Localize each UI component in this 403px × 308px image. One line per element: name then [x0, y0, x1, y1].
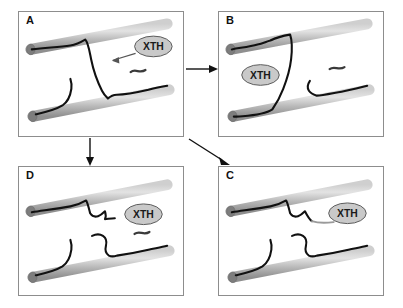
panel-d: XTH D — [18, 166, 184, 296]
xth-enzyme-oval: XTH — [329, 203, 367, 224]
xth-label-b: XTH — [250, 70, 271, 81]
microfibril-upper — [227, 24, 367, 55]
microfibril-lower — [29, 251, 169, 283]
panel-b-illustration: XTH — [219, 12, 383, 136]
xth-enzyme-oval: XTH — [135, 36, 173, 57]
xyloglucan-oligosaccharide — [330, 67, 345, 69]
xyloglucan-cut-end — [312, 221, 334, 223]
arrow-a-to-c — [186, 136, 236, 170]
panel-d-illustration: XTH — [19, 167, 183, 295]
panel-letter-d: D — [26, 170, 34, 181]
panel-letter-c: C — [226, 170, 234, 181]
panel-b: XTH B — [218, 11, 384, 137]
panel-c: XTH C — [218, 166, 384, 296]
panel-c-illustration: XTH — [219, 167, 383, 295]
microfibril-lower — [229, 251, 369, 283]
xyloglucan-oligosaccharide — [131, 70, 146, 72]
xth-label-c: XTH — [337, 208, 358, 219]
panel-a-illustration: XTH — [19, 12, 183, 136]
microfibril-lower — [229, 90, 369, 122]
xth-label-a: XTH — [143, 41, 164, 52]
xth-label-d: XTH — [133, 209, 154, 220]
figure-root: XTH A — [0, 0, 403, 308]
arrow-a-to-d — [78, 136, 102, 168]
microfibril-lower — [29, 90, 169, 122]
xth-enzyme-oval: XTH — [242, 65, 280, 86]
xth-pointer-arrow — [112, 53, 136, 63]
xth-enzyme-oval: XTH — [125, 204, 163, 225]
arrow-a-to-b — [184, 58, 220, 80]
panel-a: XTH A — [18, 11, 184, 137]
panel-letter-b: B — [226, 15, 234, 26]
panel-letter-a: A — [26, 15, 34, 26]
xyloglucan-oligosaccharide — [135, 232, 150, 234]
